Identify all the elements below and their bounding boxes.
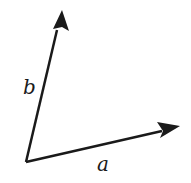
label-a: a bbox=[97, 152, 109, 176]
vector-diagram-svg: b a bbox=[0, 0, 191, 183]
arrowhead-b-icon bbox=[53, 10, 69, 31]
vector-diagram: b a bbox=[0, 0, 191, 183]
label-b: b bbox=[23, 75, 36, 99]
arrowhead-a-icon bbox=[157, 122, 180, 138]
